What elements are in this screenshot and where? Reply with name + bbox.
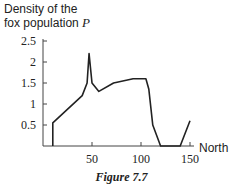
y-tick-label: 0.5 [21,118,36,132]
y-tick-label: 1.5 [21,76,36,90]
x-tick-label: 100 [132,152,150,166]
x-tick-label: 50 [86,152,98,166]
data-line [53,54,190,146]
figure-caption: Figure 7.7 [0,170,243,185]
line-chart: 0.511.522.550100150 North [0,0,243,190]
y-tick-label: 2.5 [21,34,36,48]
x-tick-label: 150 [181,152,199,166]
x-axis-label: North [199,141,228,155]
y-tick-label: 2 [30,55,36,69]
axes [43,39,194,146]
y-tick-label: 1 [30,97,36,111]
